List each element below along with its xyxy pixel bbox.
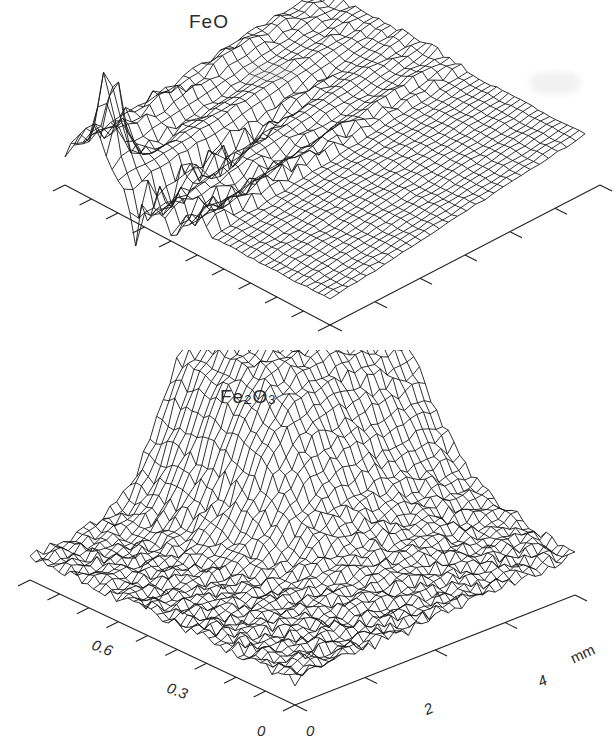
right-axis-tick-0: 0 xyxy=(306,722,314,739)
feo-wireframe-plot xyxy=(0,0,616,350)
left-axis-tick-0: 0 xyxy=(257,722,265,739)
scan-artifact xyxy=(245,62,300,84)
fe2o3-label: Fe2O3 xyxy=(220,386,276,408)
feo-surface-panel: FeO xyxy=(0,0,616,350)
fe2o3-wireframe-plot xyxy=(0,350,616,754)
fe2o3-surface-panel: Fe2O3 0 0.3 0.6 0 2 4 mm xyxy=(0,350,616,754)
scan-artifact xyxy=(530,72,580,94)
feo-label: FeO xyxy=(189,11,229,33)
figure: FeO Fe2O3 0 0.3 0.6 0 2 4 mm xyxy=(0,0,616,754)
